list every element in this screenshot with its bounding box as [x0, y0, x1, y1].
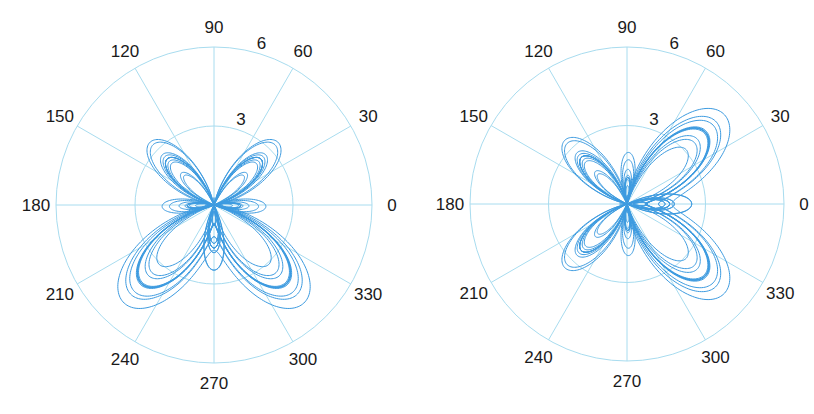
theta-tick-label: 30 — [359, 107, 378, 126]
r-tick-label: 6 — [257, 34, 266, 53]
theta-tick-label: 180 — [22, 196, 50, 215]
theta-tick-label: 240 — [111, 350, 139, 369]
theta-tick-label: 240 — [524, 348, 552, 367]
theta-tick-label: 210 — [460, 284, 488, 303]
theta-tick-label: 300 — [701, 348, 729, 367]
theta-tick-label: 60 — [294, 42, 313, 61]
theta-tick-label: 150 — [46, 107, 74, 126]
theta-tick-label: 90 — [618, 18, 637, 37]
theta-tick-label: 90 — [205, 18, 224, 37]
theta-tick-label: 270 — [613, 372, 641, 391]
theta-tick-label: 150 — [460, 107, 488, 126]
grid-spoke — [135, 68, 214, 205]
r-tick-label: 3 — [649, 110, 658, 129]
r-tick-label: 3 — [236, 110, 245, 129]
r-tick-label: 6 — [669, 34, 678, 53]
theta-tick-label: 30 — [771, 107, 790, 126]
theta-tick-label: 180 — [436, 195, 464, 214]
theta-tick-label: 330 — [766, 284, 794, 303]
theta-tick-label: 120 — [111, 42, 139, 61]
polar-charts: 030609012015018021024027030033036 030609… — [0, 0, 814, 414]
theta-tick-label: 60 — [706, 42, 725, 61]
theta-tick-label: 270 — [200, 374, 228, 393]
theta-tick-label: 330 — [354, 285, 382, 304]
grid-spoke — [214, 68, 293, 205]
theta-tick-label: 210 — [46, 285, 74, 304]
theta-tick-label: 0 — [799, 195, 808, 214]
theta-tick-label: 120 — [524, 42, 552, 61]
polar-plot-right: 030609012015018021024027030033036 — [436, 18, 809, 391]
grid-spoke — [491, 204, 627, 283]
grid-spoke — [491, 126, 627, 205]
polar-plot-left: 030609012015018021024027030033036 — [22, 18, 397, 393]
theta-tick-label: 0 — [387, 196, 396, 215]
theta-tick-label: 300 — [289, 350, 317, 369]
